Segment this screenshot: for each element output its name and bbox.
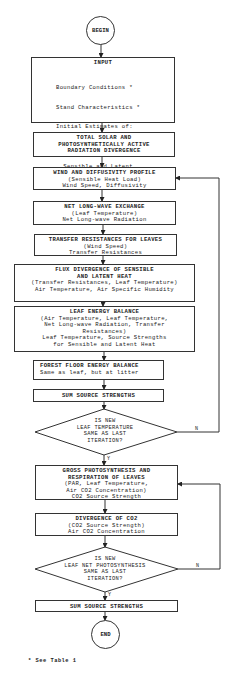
- longwave-exchange-box: NET LONG-WAVE EXCHANGE (Leaf Temperature…: [33, 201, 176, 225]
- no-label: N: [195, 426, 198, 432]
- begin-label: BEGIN: [92, 27, 109, 34]
- step-title: RADIATION DIVERGENCE: [34, 148, 174, 155]
- decision-line: SAME AS LAST: [55, 431, 155, 438]
- forest-floor-box: FOREST FLOOR ENERGY BALANCE Same as leaf…: [33, 360, 164, 380]
- input-line: Stand Characteristics *: [56, 105, 174, 112]
- step-line: Transfer Resistances: [35, 250, 176, 257]
- no-label: N: [196, 563, 199, 569]
- input-line: Initial Estimates of:: [56, 124, 174, 131]
- step-line: Same as leaf, but at litter: [40, 370, 163, 377]
- sum-source-strengths-box-1: SUM SOURCE STRENGTHS: [33, 389, 164, 402]
- decision-line: ITERATION?: [55, 438, 155, 445]
- step-line: for Sensible and Latent Heat: [15, 342, 194, 349]
- step-title: SUM SOURCE STRENGTHS: [36, 604, 177, 611]
- decision-line: LEAF TEMPERATURE: [55, 425, 155, 432]
- input-line: Boundary Conditions *: [56, 85, 174, 92]
- begin-terminal: BEGIN: [86, 16, 115, 45]
- decision-line: LEAF NET PHOTOSYNTHESIS: [50, 563, 160, 570]
- wind-diffusivity-box: WIND AND DIFFUSIVITY PROFILE (Sensible H…: [33, 167, 176, 190]
- transfer-resistances-box: TRANSFER RESISTANCES FOR LEAVES (Wind Sp…: [34, 234, 177, 256]
- step-title: SUM SOURCE STRENGTHS: [34, 393, 163, 400]
- sum-source-strengths-box-2: SUM SOURCE STRENGTHS: [35, 600, 178, 612]
- end-terminal: END: [91, 620, 120, 649]
- co2-divergence-box: DIVERGENCE OF CO2 (CO2 Source Strength) …: [35, 513, 178, 536]
- step-line: Net Long-wave Radiation: [34, 217, 175, 224]
- gross-photosynthesis-box: GROSS PHOTOSYNTHESIS AND RESPIRATION OF …: [35, 465, 178, 500]
- step-line: Air CO2 Concentration: [36, 529, 177, 536]
- decision-line: ITERATION?: [50, 576, 160, 583]
- step-line: Wind Speed, Diffusivity: [34, 183, 175, 190]
- end-label: END: [100, 631, 110, 638]
- input-box: INPUT Boundary Conditions * Stand Charac…: [31, 57, 175, 123]
- step-line: Air Temperature, Air Specific Humidity: [15, 287, 194, 294]
- decision-leaf-temperature: IS NEW LEAF TEMPERATURE SAME AS LAST ITE…: [55, 418, 155, 444]
- footnote: * See Table 1: [28, 658, 77, 664]
- flux-divergence-box: FLUX DIVERGENCE OF SENSIBLE AND LATENT H…: [14, 264, 195, 302]
- decision-line: IS NEW: [55, 418, 155, 425]
- yes-label: Y: [108, 592, 111, 598]
- input-title: INPUT: [32, 60, 174, 67]
- decision-leaf-net-photosynthesis: IS NEW LEAF NET PHOTOSYNTHESIS SAME AS L…: [50, 556, 160, 582]
- leaf-energy-balance-box: LEAF ENERGY BALANCE (Air Temperature, Le…: [14, 306, 195, 352]
- decision-line: SAME AS LAST: [50, 569, 160, 576]
- decision-line: IS NEW: [50, 556, 160, 563]
- yes-label: Y: [107, 456, 110, 462]
- step-line: CO2 Source Strength: [36, 494, 177, 501]
- radiation-divergence-box: TOTAL SOLAR AND PHOTOSYNTHETICALLY ACTIV…: [33, 132, 175, 157]
